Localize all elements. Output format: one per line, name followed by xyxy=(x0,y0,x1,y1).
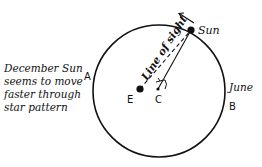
caption-line: faster through xyxy=(4,88,83,101)
earth-label: E xyxy=(127,94,133,105)
center-label: C xyxy=(155,94,162,105)
caption-line: seems to move xyxy=(4,75,83,88)
center-dot xyxy=(156,87,159,90)
sun-label: Sun xyxy=(198,24,220,37)
point-a-label: A xyxy=(84,71,91,82)
caption-line: December Sun xyxy=(4,62,83,75)
caption-line: star pattern xyxy=(4,101,83,114)
june-label: June xyxy=(227,81,253,93)
point-b-label: B xyxy=(229,101,236,112)
earth-dot xyxy=(136,85,143,92)
december-caption: December Sun seems to move faster throug… xyxy=(4,62,83,114)
